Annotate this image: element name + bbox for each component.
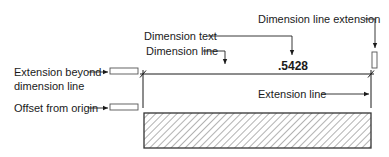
dimension-line-extension-label: Dimension line extension bbox=[258, 13, 380, 25]
dimension-line-extension-box bbox=[372, 52, 377, 68]
hatched-object bbox=[144, 113, 371, 148]
extension-beyond-label-line2: dimension line bbox=[14, 80, 84, 92]
offset-from-origin-label: Offset from origin bbox=[14, 102, 98, 114]
dimension-text-label: Dimension text bbox=[144, 30, 217, 42]
extension-beyond-box bbox=[110, 68, 138, 74]
extension-line-label: Extension line bbox=[258, 88, 327, 100]
offset-from-origin-box bbox=[110, 104, 138, 110]
dimension-text-leader bbox=[208, 36, 292, 55]
dimension-diagram: Dimension line extension Dimension text … bbox=[0, 0, 389, 157]
dimension-value: .5428 bbox=[278, 59, 308, 73]
